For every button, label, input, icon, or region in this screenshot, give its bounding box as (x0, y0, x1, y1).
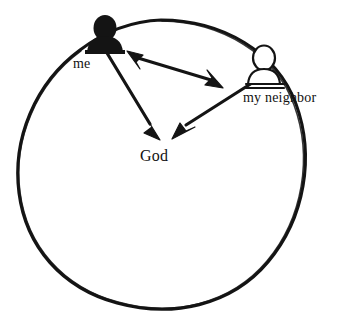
person-bust-filled-icon (85, 15, 125, 54)
arrow-me-neighbor (127, 51, 223, 88)
arrow-neighbor-god (172, 83, 252, 139)
node-label-me: me (73, 57, 91, 71)
node-label-god: God (140, 148, 168, 164)
diagram-canvas: me my neighbor God (0, 0, 341, 318)
node-label-my-neighbor: my neighbor (243, 91, 316, 105)
arrow-me-god (107, 53, 160, 140)
diagram-svg (0, 0, 341, 318)
person-bust-outline-icon (246, 46, 284, 89)
